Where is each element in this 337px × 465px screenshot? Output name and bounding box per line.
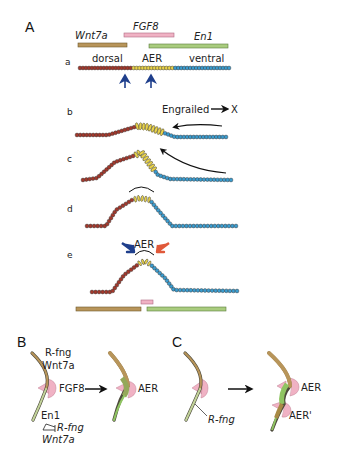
cell bbox=[104, 290, 108, 294]
cell bbox=[231, 224, 235, 228]
label-aer-c: AER bbox=[301, 382, 321, 393]
wnt7a-expression-bar bbox=[78, 43, 127, 47]
cell bbox=[144, 196, 148, 202]
cell bbox=[192, 224, 196, 228]
cell bbox=[221, 289, 225, 293]
ventral-label: ventral bbox=[189, 53, 224, 64]
cell bbox=[217, 289, 221, 293]
cell bbox=[85, 224, 89, 228]
cell bbox=[210, 289, 214, 293]
blue-arrow-icon bbox=[122, 243, 134, 252]
cell bbox=[189, 288, 193, 292]
cell bbox=[96, 224, 100, 228]
label-wnt7a-bottom: Wnt7a bbox=[42, 434, 75, 445]
cell bbox=[99, 224, 103, 228]
row-label-e: e bbox=[67, 250, 73, 260]
cell-row-e bbox=[90, 259, 239, 294]
cell bbox=[178, 224, 182, 228]
cell bbox=[142, 123, 146, 130]
cell bbox=[174, 224, 178, 228]
label-wnt7a: Wnt7a bbox=[42, 360, 75, 371]
panel-label-a: A bbox=[25, 19, 35, 35]
cell bbox=[235, 289, 239, 293]
cell bbox=[175, 288, 179, 292]
aer-bracket-icon bbox=[129, 187, 154, 192]
cell bbox=[130, 198, 134, 202]
cell bbox=[178, 288, 182, 292]
cell bbox=[202, 224, 206, 228]
cell bbox=[135, 263, 139, 267]
figure-canvas: A Wnt7a FGF8 En1 a dorsal AER ventral b … bbox=[0, 0, 337, 465]
panel-b: B R-fng Wnt7a FGF8 En1 R-fng Wnt7a bbox=[17, 334, 158, 445]
cell bbox=[220, 224, 224, 228]
cell-row-a bbox=[78, 66, 231, 70]
cell bbox=[133, 196, 137, 203]
cell bbox=[214, 289, 218, 293]
cell-row-d bbox=[85, 195, 238, 228]
cell bbox=[216, 224, 220, 228]
gene-label-wnt7a: Wnt7a bbox=[75, 30, 108, 41]
cell bbox=[185, 224, 189, 228]
label-fgf8: FGF8 bbox=[59, 383, 85, 394]
cell bbox=[137, 195, 141, 202]
panel-label-c: C bbox=[172, 334, 182, 350]
cell bbox=[90, 290, 94, 294]
cell bbox=[101, 290, 105, 294]
cell bbox=[232, 289, 236, 293]
label-en1: En1 bbox=[41, 410, 60, 421]
cell bbox=[89, 224, 93, 228]
label-aer-b: AER bbox=[138, 383, 158, 394]
cell bbox=[200, 289, 204, 293]
cell bbox=[170, 224, 174, 228]
cell bbox=[188, 224, 192, 228]
cell bbox=[209, 224, 213, 228]
cell bbox=[182, 288, 186, 292]
inhibition-icon bbox=[43, 424, 55, 430]
dorsal-label: dorsal bbox=[92, 53, 123, 64]
x-label: X bbox=[231, 104, 238, 115]
cell bbox=[192, 288, 196, 292]
cell bbox=[94, 290, 98, 294]
cell bbox=[181, 224, 185, 228]
curved-arrow-icon bbox=[162, 150, 226, 173]
gene-label-en1: En1 bbox=[194, 31, 213, 42]
aer-label-row-a: AER bbox=[142, 53, 162, 64]
cell bbox=[196, 288, 200, 292]
label-aer-prime-c: AER' bbox=[289, 410, 312, 421]
rfng-pointer-line bbox=[195, 404, 207, 416]
gene-label-fgf8: FGF8 bbox=[133, 21, 159, 32]
engrailed-label: Engrailed bbox=[162, 104, 209, 115]
label-rfng-c: R-fng bbox=[208, 414, 235, 425]
cell bbox=[206, 224, 210, 228]
red-arrow-icon bbox=[157, 243, 169, 252]
blue-arrow-icon bbox=[147, 75, 155, 88]
cell bbox=[223, 224, 227, 228]
fgf8-expression-bar-bottom bbox=[141, 300, 153, 304]
cell bbox=[224, 135, 228, 139]
label-rfng-bottom: R-fng bbox=[57, 422, 84, 433]
en1-expression-bar bbox=[149, 44, 228, 48]
row-label-d: d bbox=[67, 204, 73, 214]
cell bbox=[224, 289, 228, 293]
cell bbox=[92, 224, 96, 228]
cell bbox=[229, 178, 233, 182]
cell bbox=[227, 66, 231, 70]
fgf8-wedge-right bbox=[48, 379, 56, 398]
aer-bracket-icon bbox=[135, 251, 154, 256]
cell bbox=[203, 289, 207, 293]
limb-after-b bbox=[110, 353, 136, 420]
panel-c: C R-fng AER AER' bbox=[172, 334, 321, 430]
label-rfng: R-fng bbox=[45, 347, 71, 358]
cell bbox=[139, 122, 143, 129]
cell bbox=[140, 195, 144, 201]
cell bbox=[234, 224, 238, 228]
fgf8-expression-bar bbox=[124, 33, 174, 37]
cell bbox=[185, 288, 189, 292]
cell bbox=[228, 289, 232, 293]
row-label-b: b bbox=[67, 107, 73, 117]
en1-expression-bar-bottom bbox=[147, 307, 226, 311]
row-label-c: c bbox=[67, 154, 72, 164]
limb-before-c bbox=[185, 353, 208, 420]
row-label-a: a bbox=[65, 57, 71, 67]
blue-arrow-icon bbox=[121, 75, 129, 88]
